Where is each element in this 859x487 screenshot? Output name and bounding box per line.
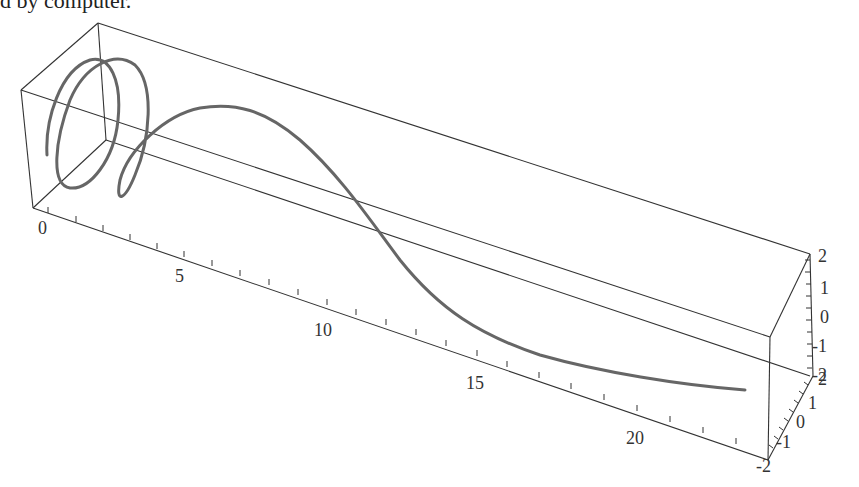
svg-text:-1: -1 [776,432,791,452]
svg-text:1: 1 [808,393,817,413]
x-axis-labels: 0 5 10 15 20 [38,218,644,448]
svg-text:20: 20 [626,428,644,448]
bounding-box [21,23,813,460]
depth-axis-labels: 2 1 0 -1 -2 [756,369,827,476]
svg-text:1: 1 [820,278,829,298]
x-axis-ticks [48,207,736,444]
svg-text:10: 10 [314,320,332,340]
svg-text:2: 2 [818,246,827,266]
plot-3d: 0 5 10 15 20 2 1 0 -1 -2 2 1 0 [0,0,859,487]
svg-text:5: 5 [175,266,184,286]
svg-text:0: 0 [820,307,829,327]
svg-text:-1: -1 [812,336,827,356]
svg-text:0: 0 [796,412,805,432]
svg-text:0: 0 [38,218,47,238]
svg-text:-2: -2 [756,456,771,476]
svg-text:2: 2 [818,369,827,389]
svg-text:15: 15 [466,373,484,393]
curve-series [47,59,745,390]
vertical-axis-labels: 2 1 0 -1 -2 [812,246,829,385]
